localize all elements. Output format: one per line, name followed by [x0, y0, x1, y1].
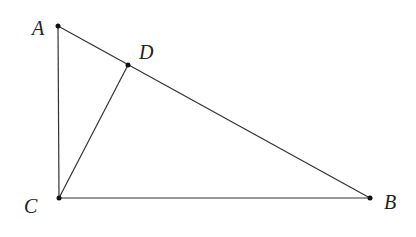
label-B: B: [384, 192, 396, 212]
diagram-lines: [0, 0, 416, 237]
triangle-diagram: A D C B: [0, 0, 416, 237]
segment-AC: [58, 26, 59, 198]
label-D: D: [139, 42, 153, 62]
label-C: C: [24, 196, 37, 216]
point-D: [126, 63, 131, 68]
point-B: [368, 196, 373, 201]
point-C: [57, 196, 62, 201]
segment-CD: [59, 65, 128, 198]
point-A: [56, 24, 61, 29]
label-A: A: [32, 18, 44, 38]
segment-AB: [58, 26, 370, 198]
